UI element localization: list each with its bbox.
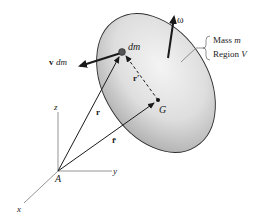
region-label-prefix: Region [213,49,241,59]
y-axis-label: y [112,166,117,176]
mass-label-prefix: Mass [213,35,234,45]
dm-label: dm [128,41,140,52]
rigid-body-kinematics-diagram: dm G A v dm ω r r̄ r′ z y x Mass m Regio… [0,0,268,217]
v-dm-label-rest: dm [56,57,68,67]
omega-label: ω [177,14,184,25]
center-of-mass-g-point [156,98,160,102]
region-symbol: V [241,49,248,59]
z-axis-label: z [53,102,58,112]
g-label: G [159,104,166,115]
x-axis [24,171,58,203]
region-label: Region V [213,49,248,59]
rigid-body-ellipse [72,0,240,174]
mass-label: Mass m [213,35,241,45]
r-bar-label: r̄ [112,135,116,145]
brace-icon [203,36,210,60]
a-label: A [54,173,62,184]
v-dm-label-bold: v [49,57,54,67]
x-axis-label: x [16,204,21,214]
r-prime-label: r′ [133,73,140,83]
mass-element-dm-point [119,49,126,56]
mass-symbol: m [234,35,241,45]
r-label: r [96,107,100,117]
position-vector-r [58,57,119,171]
